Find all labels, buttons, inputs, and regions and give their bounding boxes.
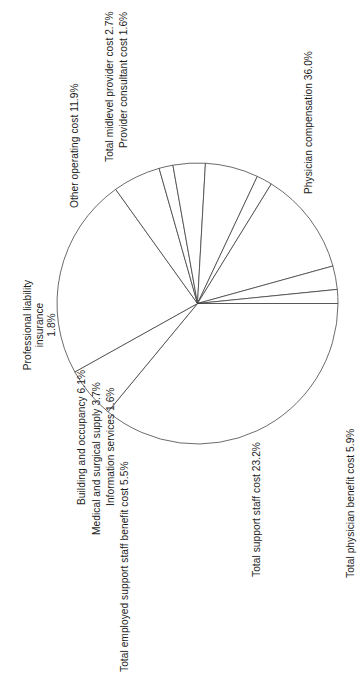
slice-label-physician-compensation: Physician compensation 36.0% (303, 51, 315, 194)
slice-label-total-support-staff-cost: Total support staff cost 23.2% (251, 442, 263, 577)
slice-label-information-services: Information services 1.6% (105, 388, 117, 506)
pie-chart-figure: Physician compensation 36.0%Total physic… (0, 0, 359, 689)
slice-label-medical-and-surgical-supply: Medical and surgical supply 3.7% (91, 382, 103, 535)
slice-label-line-3: 1.8% (46, 313, 57, 336)
slice-label-building-and-occupancy: Building and occupancy 6.1% (76, 370, 88, 505)
slice-label-professional-liability-insurance: Professional liability insurance 1.8% (22, 260, 57, 390)
slice-label-line-2: insurance (34, 303, 45, 348)
slice-label-total-employed-support-staff-benefit-cost: Total employed support staff benefit cos… (119, 461, 131, 672)
slice-label-other-operating-cost: Other operating cost 11.9% (69, 83, 81, 208)
slice-label-line-1: Professional liability (22, 280, 33, 371)
slice-label-provider-consultant-cost: Provider consultant cost 1.6% (118, 12, 130, 148)
slice-label-total-midlevel-provider-cost: Total midlevel provider cost 2.7% (104, 11, 116, 162)
slice-label-total-physician-benefit-cost: Total physician benefit cost 5.9% (345, 429, 357, 578)
